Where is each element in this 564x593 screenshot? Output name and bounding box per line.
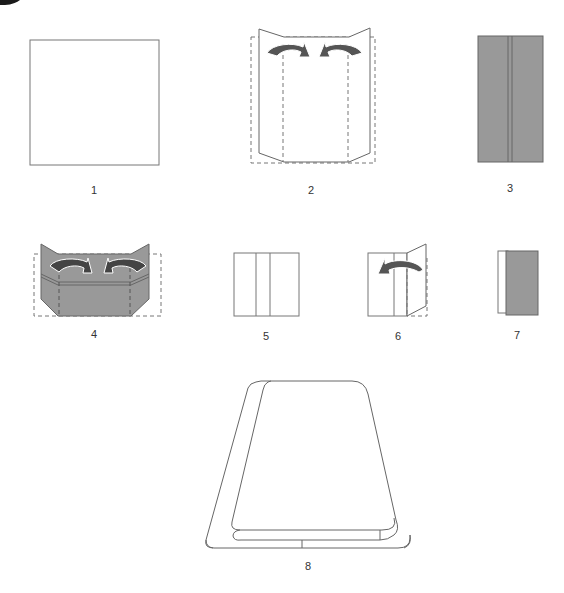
step-3-colored-panel (478, 36, 543, 162)
step-label: 1 (84, 184, 104, 196)
step-6-fold-flap (368, 244, 427, 316)
step-label: 4 (84, 328, 104, 340)
folding-diagram (0, 0, 564, 593)
step-label: 7 (507, 329, 527, 341)
step-1-square (30, 40, 159, 165)
step-2-fold-edges (251, 28, 375, 163)
step-8-perspective-fold (206, 381, 411, 548)
step-4-fold-corners (34, 244, 161, 316)
step-label: 5 (256, 330, 276, 342)
step-label: 6 (388, 330, 408, 342)
step-5-three-panels (234, 253, 299, 316)
step-label: 3 (500, 182, 520, 194)
step-label: 2 (301, 184, 321, 196)
step-7-folded-result (498, 251, 538, 315)
step-label: 8 (298, 560, 318, 572)
